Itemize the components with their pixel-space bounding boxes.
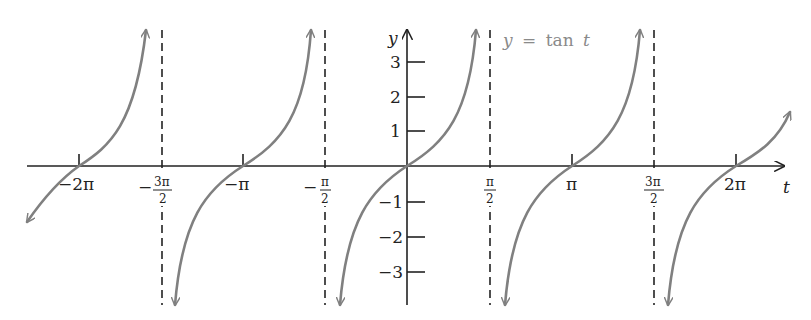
svg-text:π: π [486,175,494,189]
svg-text:2: 2 [159,192,167,206]
tan-branch-2 [175,30,311,305]
x-label-neg-pi: −π [224,174,249,194]
svg-text:2: 2 [650,192,658,206]
x-label-neg-3pi-2: − 3π 2 [138,170,174,206]
x-label-3pi-2: 3π 2 [643,170,665,206]
x-label-neg-2pi: −2π [58,174,94,194]
asymptotes [162,30,654,305]
function-label: y = tan t [502,30,590,50]
tan-branch-3 [340,30,476,305]
tan-branch-5 [668,112,790,305]
y-axis-label: y [387,28,398,48]
y-label-neg-3: −3 [378,262,403,282]
t-axis-label: t [783,177,790,197]
x-label-neg-pi-2: − π 2 [303,170,333,206]
svg-text:2: 2 [486,192,494,206]
x-label-pi-2: π 2 [483,170,498,206]
y-label-neg-1: −1 [378,192,403,212]
svg-text:3π: 3π [645,175,661,189]
x-label-pi: π [566,174,577,194]
tan-branch-4 [505,30,640,305]
y-label-1: 1 [390,121,401,141]
tangent-graph: y t y = tan t −2π −π π 2π − 3π 2 − π 2 π… [0,0,811,320]
svg-text:−: − [303,177,317,197]
y-label-3: 3 [390,52,401,72]
y-label-2: 2 [390,87,401,107]
y-label-neg-2: −2 [378,227,403,247]
svg-text:3π: 3π [154,175,170,189]
y-ticks [407,62,425,272]
svg-text:π: π [321,175,329,189]
x-label-2pi: 2π [724,174,746,194]
tan-curves [27,30,790,305]
svg-text:2: 2 [321,192,329,206]
svg-text:−: − [138,177,152,197]
